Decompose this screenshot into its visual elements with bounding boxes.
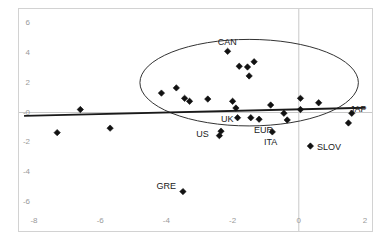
x-axis-tick: -8 [24, 216, 44, 225]
data-point [297, 106, 303, 112]
data-point [248, 115, 254, 121]
data-point [107, 125, 113, 131]
point-label-uk: UK [221, 114, 234, 124]
data-point [205, 96, 211, 102]
point-label-can: CAN [218, 37, 237, 47]
data-point [315, 100, 321, 106]
regression-line [24, 108, 365, 116]
data-point [54, 129, 60, 135]
data-point [173, 85, 179, 91]
y-axis-tick: -6 [14, 197, 30, 206]
data-point [158, 90, 164, 96]
point-label-eur: EUR [254, 125, 273, 135]
y-axis-tick: -4 [14, 167, 30, 176]
data-point [234, 115, 240, 121]
data-point [244, 64, 250, 70]
data-point [77, 106, 83, 112]
x-axis-tick: -2 [223, 216, 243, 225]
data-point [224, 48, 230, 54]
regression-line-path [24, 108, 365, 116]
scatter-chart: 642-0-2-4-6 -8-6-4-202 CANUKEURUSITASLOV… [0, 0, 383, 247]
data-point [281, 110, 287, 116]
y-axis-tick: 6 [14, 18, 30, 27]
data-point [236, 63, 242, 69]
y-axis-tick: -2 [14, 137, 30, 146]
data-point [297, 95, 303, 101]
point-label-ita: ITA [264, 137, 277, 147]
data-points [54, 48, 355, 195]
x-axis-tick: -4 [156, 216, 176, 225]
data-point [267, 102, 273, 108]
data-point [229, 98, 235, 104]
data-point [251, 59, 257, 65]
data-point [345, 120, 351, 126]
point-label-gre: GRE [156, 181, 176, 191]
plot-canvas [0, 0, 383, 247]
data-point [284, 117, 290, 123]
point-label-slov: SLOV [317, 142, 341, 152]
data-point [256, 116, 262, 122]
point-label-us: US [196, 129, 209, 139]
x-axis-tick: 2 [355, 216, 375, 225]
x-axis-tick: -6 [90, 216, 110, 225]
data-point [180, 188, 186, 194]
data-point [307, 143, 313, 149]
y-axis-tick: -0 [14, 108, 30, 117]
data-point [246, 73, 252, 79]
y-axis-tick: 4 [14, 48, 30, 57]
x-axis-tick: 0 [289, 216, 309, 225]
y-axis-tick: 2 [14, 78, 30, 87]
point-label-jap: JAP [350, 104, 367, 114]
